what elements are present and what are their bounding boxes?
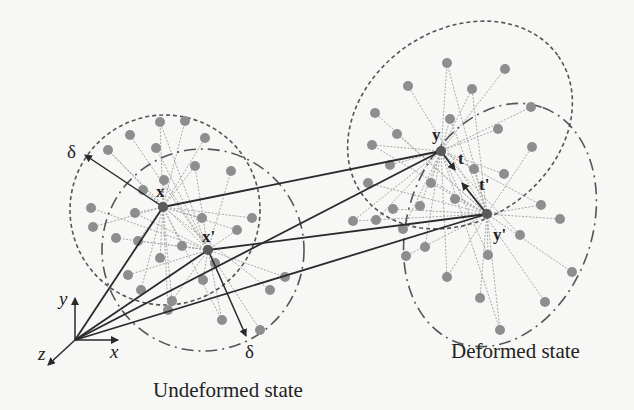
point-label-x: x [156,182,165,201]
vector-label-t: t [458,149,464,168]
axis-label-z: z [37,343,46,364]
axis-label-y: y [57,288,68,309]
point-label-y-prime: y' [493,225,506,244]
deformed-horizons [307,0,629,374]
point-label-x-prime: x' [202,227,215,246]
axis-label-x: x [109,341,119,362]
caption-undeformed: Undeformed state [153,378,303,402]
vector-label-t-prime: t' [479,175,489,194]
delta-label-lower: δ [245,341,254,362]
delta-label-upper: δ [67,141,76,162]
peridynamics-diagram: x x' y y' t t' δ δ y x z Undeformed stat… [0,0,634,410]
caption-deformed: Deformed state [451,339,580,363]
point-label-y: y [432,125,441,144]
